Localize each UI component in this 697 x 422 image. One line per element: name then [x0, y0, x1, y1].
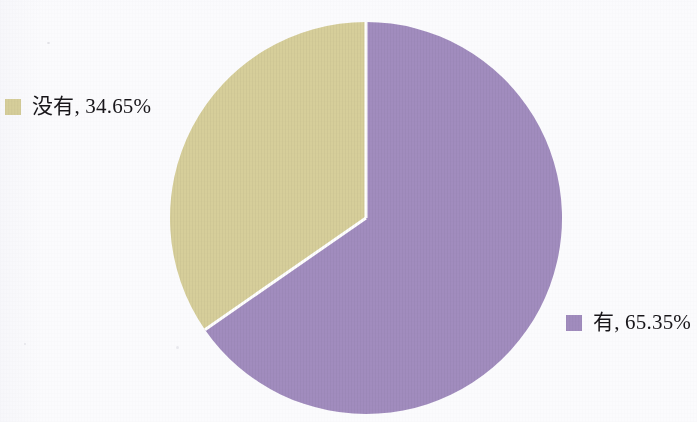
- pie-chart-figure: 没有, 34.65% 有, 65.35%: [0, 0, 697, 422]
- legend-label-yes: 有, 65.35%: [593, 312, 691, 333]
- legend-item-no[interactable]: 没有, 34.65%: [5, 96, 151, 117]
- pie-texture-overlay: [160, 16, 572, 422]
- legend-swatch-no-icon: [5, 99, 21, 115]
- legend-item-yes[interactable]: 有, 65.35%: [566, 312, 691, 333]
- legend-swatch-yes-icon: [566, 315, 582, 331]
- legend-label-no: 没有, 34.65%: [32, 96, 151, 117]
- pie-chart-graphic: [0, 0, 697, 422]
